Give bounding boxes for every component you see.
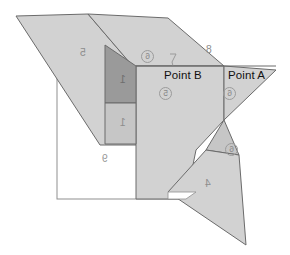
right-beak-wedge <box>224 66 276 120</box>
diagram-shapes <box>0 0 290 255</box>
diagram-canvas: Point B Point A 5 8 1 1 9 4 6 5 6 6 <box>0 0 290 255</box>
mid-band <box>105 103 136 144</box>
